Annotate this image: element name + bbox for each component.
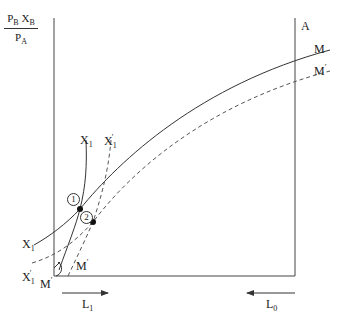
m-curve-label: M bbox=[314, 43, 325, 55]
diagram-canvas bbox=[0, 0, 341, 317]
point-2-marker: 2 bbox=[80, 211, 93, 224]
x1-top-label: X1 bbox=[80, 134, 93, 149]
l0-label: L0 bbox=[266, 298, 277, 313]
origin-arc bbox=[56, 262, 62, 276]
x1-prime-left-label: X1′ bbox=[22, 270, 31, 286]
origin-tick bbox=[54, 262, 60, 268]
x1-left-label: X1 bbox=[22, 238, 35, 253]
m-prime-curve bbox=[32, 71, 330, 263]
point-1-marker: 1 bbox=[67, 193, 80, 206]
origin-m-prime-label: M′ bbox=[40, 277, 52, 290]
inner-m-prime-label: M′ bbox=[76, 259, 88, 272]
l1-label: L1 bbox=[82, 298, 93, 313]
right-axis-label: A bbox=[301, 20, 310, 32]
m-prime-curve-label: M′ bbox=[314, 64, 326, 77]
x1-prime-top-label: X1′ bbox=[104, 134, 113, 150]
y-axis-label: PB XB PA bbox=[4, 12, 38, 46]
